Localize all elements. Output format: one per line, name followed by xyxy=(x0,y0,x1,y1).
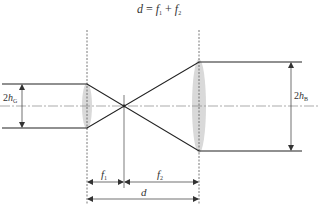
focal-point xyxy=(123,105,126,108)
title-equals: = xyxy=(143,2,156,16)
title-f2-sub: 2 xyxy=(178,10,181,16)
label-sub: B xyxy=(304,96,308,102)
label-sub: 2 xyxy=(160,175,163,181)
label-sub: G xyxy=(13,98,17,104)
input-beam-label: 2hG xyxy=(3,92,17,104)
label-var: d xyxy=(141,186,147,198)
focal-length-1-label: f1 xyxy=(101,168,107,181)
output-beam-label: 2hB xyxy=(294,90,308,102)
beam-upper xyxy=(2,84,302,151)
telescope-beam-expander-diagram: d = f1 + f2 2hG 2hB f1 f2 d xyxy=(0,0,318,207)
title-plus: + xyxy=(162,2,175,16)
beam-lower xyxy=(2,62,302,128)
separation-label: d xyxy=(141,186,147,198)
label-sub: 1 xyxy=(104,175,107,181)
focal-length-2-label: f2 xyxy=(157,168,163,181)
formula-title: d = f1 + f2 xyxy=(0,2,318,17)
